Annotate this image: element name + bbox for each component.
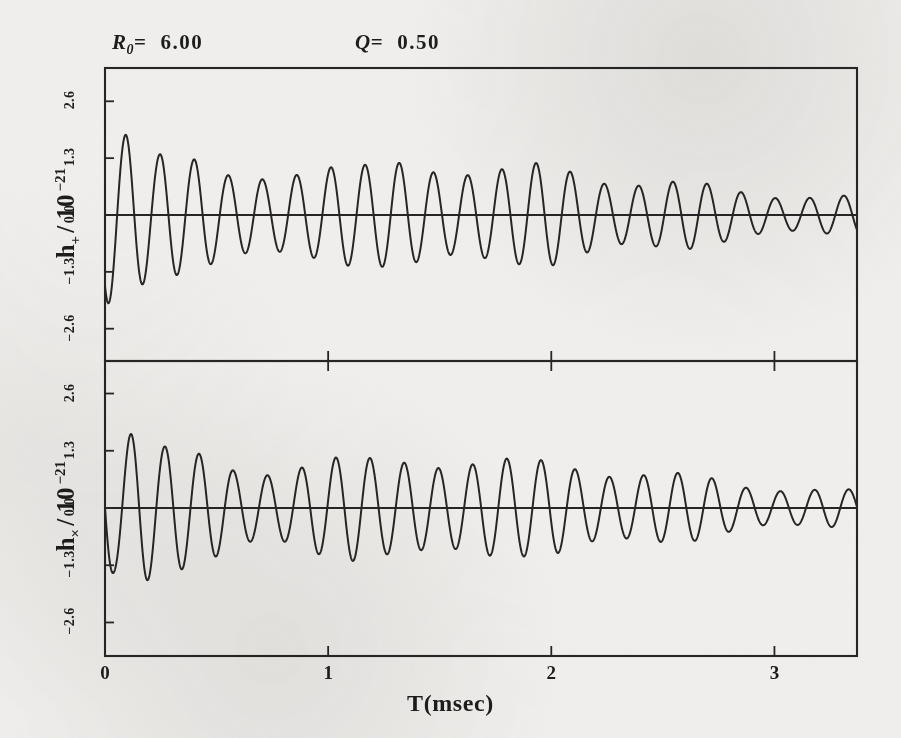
x-tick-label-1: 1 [308,662,348,684]
x-tick-label-2: 2 [531,662,571,684]
y-tick-label-h-cross-0: 2.6 [62,370,78,416]
waveform-plot [0,0,901,738]
y-tick-label-h-cross-1: 1.3 [62,427,78,473]
annotation-q-equals: = [371,30,383,54]
annotation-q: Q=0.50 [355,30,440,55]
annotation-q-symbol: Q [355,30,371,54]
x-axis-label: T(msec) [0,690,901,717]
annotation-r0-symbol: R [112,30,127,54]
figure-root: R0=6.00 Q=0.50 h+/ 10−21 h×/ 10−21 T(mse… [0,0,901,738]
x-tick-label-0: 0 [85,662,125,684]
y-tick-label-h-plus-1: 1.3 [62,134,78,180]
y-tick-label-h-plus-3: −1.3 [62,248,78,294]
y-tick-label-h-plus-4: −2.6 [62,305,78,351]
waveform-curve-h-plus [105,135,857,303]
annotation-r0-subscript: 0 [127,42,135,57]
y-tick-label-h-cross-4: −2.6 [62,598,78,644]
annotation-r0-value: 6.00 [160,30,203,54]
y-axis-label-top-sub: + [67,236,83,245]
y-tick-label-h-plus-0: 2.6 [62,77,78,123]
annotation-r0: R0=6.00 [112,30,203,58]
y-tick-label-h-cross-3: −1.3 [62,541,78,587]
y-tick-label-h-plus-2: 0.0 [62,191,78,237]
x-tick-label-3: 3 [754,662,794,684]
y-axis-label-bottom-sub: × [67,529,83,538]
annotation-r0-equals: = [134,30,146,54]
annotation-q-value: 0.50 [397,30,440,54]
y-tick-label-h-cross-2: 0.0 [62,484,78,530]
